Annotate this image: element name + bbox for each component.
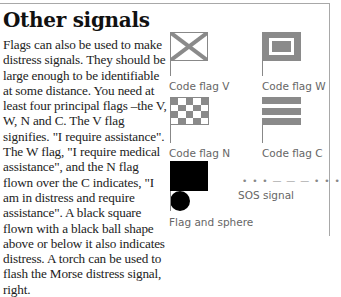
flag-pole [170,191,171,211]
black-flag-icon [170,161,208,191]
section-title: Other signals [3,8,150,32]
caption-flag-w: Code flag W [262,80,326,92]
flag-w-icon [262,32,301,61]
caption-sos: SOS signal [238,189,294,201]
flag-pole [170,61,171,76]
body-paragraph: Flags can also be used to make distress … [3,37,169,297]
caption-flag-sphere: Flag and sphere [169,216,253,228]
flag-c-icon [262,97,301,125]
flag-n-icon [170,97,209,125]
flag-pole [170,125,171,143]
right-rule [329,3,330,236]
top-rule [0,3,330,4]
caption-flag-v: Code flag V [169,80,229,92]
flag-v-icon [170,32,208,61]
flag-pole [262,125,263,143]
black-sphere-icon [170,191,190,211]
caption-flag-n: Code flag N [169,147,230,159]
caption-flag-c: Code flag C [262,147,323,159]
sos-morse-pattern: • • • — — — • • • [242,176,341,186]
flag-pole [262,61,263,76]
